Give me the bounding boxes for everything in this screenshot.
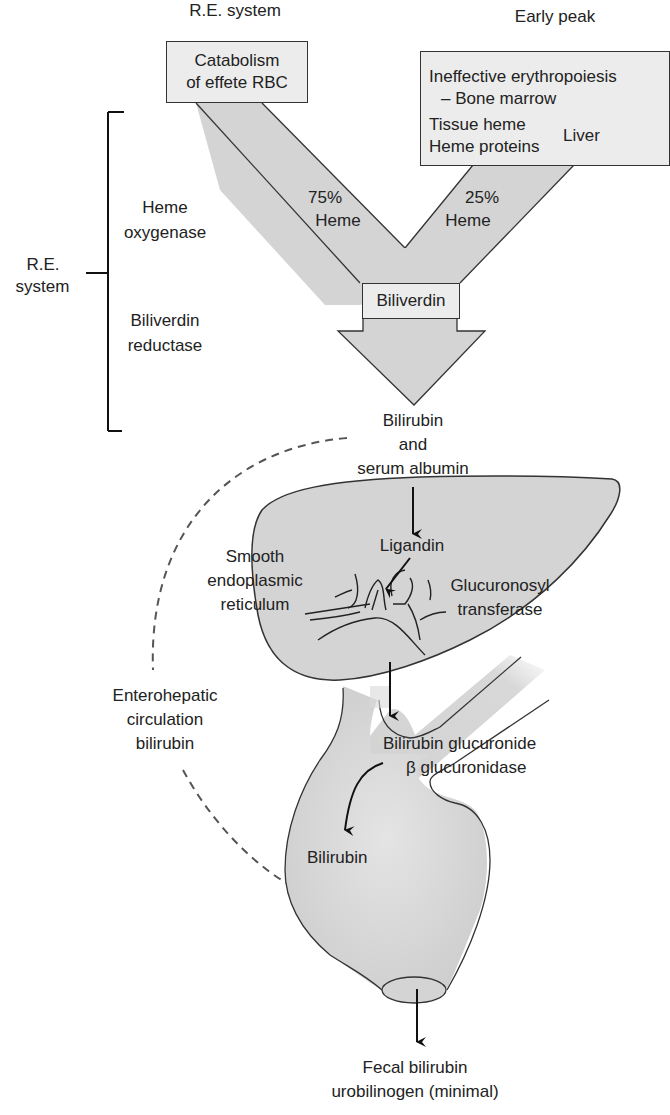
early-box-bone-marrow: – Bone marrow — [441, 88, 556, 109]
biliverdin-box: Biliverdin — [362, 283, 460, 319]
re-system-header: R.E. system — [180, 0, 290, 21]
glucuronosyl-transferase-line1: Glucuronosyl — [430, 575, 570, 596]
ser-label-line1: Smooth — [200, 546, 310, 567]
bilirubin-glucuronide-label: Bilirubin glucuronide — [383, 733, 536, 754]
right-flow-label: Heme — [438, 210, 498, 231]
transport-line3: serum albumin — [343, 458, 483, 479]
enterohepatic-line2: circulation — [100, 709, 230, 730]
early-box-ineffective-erythropoiesis: Ineffective erythropoiesis — [429, 66, 617, 87]
glucuronosyl-transferase-line2: transferase — [430, 599, 570, 620]
biliverdin-label: Biliverdin — [363, 290, 459, 311]
rbc-box-line2: of effete RBC — [167, 72, 307, 93]
fecal-output-line1: Fecal bilirubin — [330, 1057, 500, 1078]
left-flow-label: Heme — [308, 210, 368, 231]
rbc-catabolism-box: Catabolism of effete RBC — [166, 41, 308, 103]
early-peak-header: Early peak — [500, 6, 610, 27]
biliverdin-reductase-line2: reductase — [110, 335, 220, 356]
anal-opening — [382, 977, 446, 1003]
ligandin-label: Ligandin — [367, 535, 457, 556]
early-box-heme-proteins: Heme proteins — [429, 136, 540, 157]
beta-glucuronidase-label: β glucuronidase — [406, 757, 526, 778]
enterohepatic-line3: bilirubin — [100, 733, 230, 754]
rbc-box-line1: Catabolism — [167, 50, 307, 71]
biliverdin-reductase-line1: Biliverdin — [110, 310, 220, 331]
re-system-label-line1: R.E. — [18, 254, 68, 275]
right-flow-percent: 25% — [452, 187, 512, 208]
left-flow-percent: 75% — [295, 187, 355, 208]
ser-label-line2: endoplasmic — [195, 570, 315, 591]
heme-oxygenase-line2: oxygenase — [110, 222, 220, 243]
re-system-label-line2: system — [10, 276, 75, 297]
enterohepatic-line1: Enterohepatic — [100, 685, 230, 706]
transport-line1: Bilirubin — [363, 410, 463, 431]
early-box-liver-label: Liver — [563, 125, 600, 146]
ser-label-line3: reticulum — [200, 594, 310, 615]
heme-oxygenase-line1: Heme — [110, 197, 220, 218]
re-system-bracket — [86, 112, 124, 431]
early-peak-box: Ineffective erythropoiesis – Bone marrow… — [420, 51, 670, 166]
biliverdin-to-bilirubin-arrow — [338, 318, 485, 405]
transport-line2: and — [363, 434, 463, 455]
early-box-tissue-heme: Tissue heme — [429, 114, 526, 135]
intestinal-bilirubin-label: Bilirubin — [307, 847, 367, 868]
fecal-output-line2: urobilinogen (minimal) — [310, 1081, 520, 1102]
